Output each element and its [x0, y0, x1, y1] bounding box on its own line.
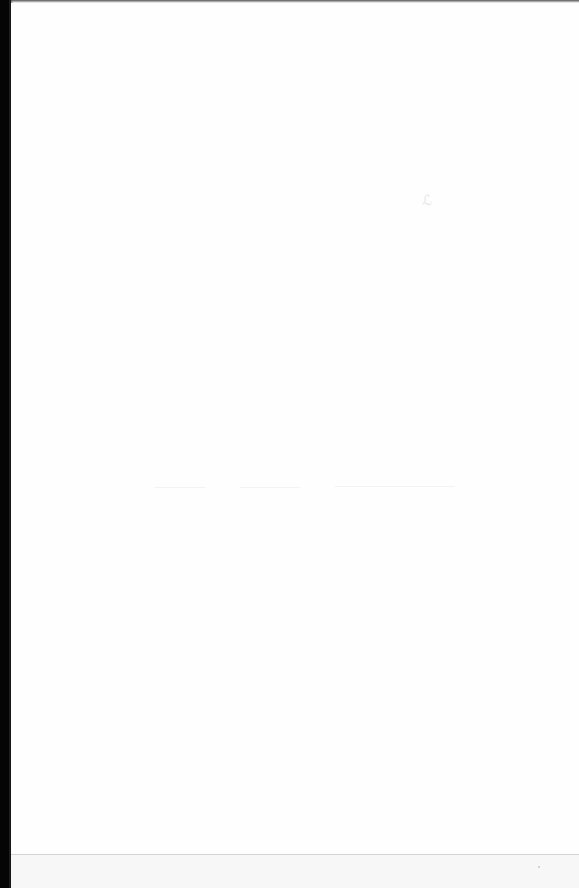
faint-bleed-line	[335, 486, 455, 487]
scan-border-left	[0, 0, 11, 888]
bleed-through-mark: ℒ	[422, 192, 432, 209]
blank-page	[11, 3, 579, 888]
faint-bleed-line	[155, 487, 205, 488]
faint-bleed-line	[240, 487, 300, 488]
dust-speck	[538, 866, 540, 868]
page-bottom-strip	[11, 855, 579, 888]
